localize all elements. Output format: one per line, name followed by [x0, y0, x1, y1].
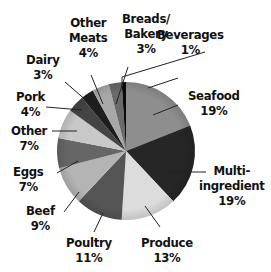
label-multi-pct: 19% — [199, 193, 265, 208]
label-produce-name: Produce — [141, 235, 193, 250]
label-other-pct: 7% — [11, 138, 47, 153]
label-produce: Produce 13% — [141, 235, 193, 265]
label-multi-name1: Multi- — [199, 163, 265, 178]
label-other-name: Other — [11, 123, 47, 138]
label-seafood-pct: 19% — [188, 103, 240, 118]
label-beef: Beef 9% — [26, 203, 55, 233]
label-produce-pct: 13% — [141, 250, 193, 265]
label-beef-name: Beef — [26, 203, 55, 218]
label-poultry: Poultry 11% — [66, 235, 112, 265]
label-breads: Breads/ Bakery 3% — [122, 11, 170, 56]
label-other-meats: Other Meats 4% — [69, 15, 108, 60]
label-poultry-name: Poultry — [66, 235, 112, 250]
leader-line-beef — [64, 192, 79, 212]
label-breads-pct: 3% — [122, 41, 170, 56]
leader-line-dairy — [65, 82, 88, 102]
label-eggs-pct: 7% — [13, 179, 44, 194]
leader-line-beverages — [148, 78, 178, 88]
label-multi-name2: ingredient — [199, 178, 265, 193]
label-seafood: Seafood 19% — [188, 88, 240, 118]
label-dairy-pct: 3% — [26, 67, 60, 82]
label-other: Other 7% — [11, 123, 47, 153]
label-breads-name2: Bakery — [122, 26, 170, 41]
label-dairy: Dairy 3% — [26, 52, 60, 82]
label-other-meats-name2: Meats — [69, 30, 108, 45]
label-beef-pct: 9% — [26, 218, 55, 233]
leader-line-poultry — [94, 213, 103, 232]
label-pork-name: Pork — [16, 89, 45, 104]
label-pork: Pork 4% — [16, 89, 45, 119]
label-pork-pct: 4% — [16, 104, 45, 119]
pie-edge-shade — [57, 82, 195, 220]
label-other-meats-name1: Other — [69, 15, 108, 30]
label-multi-ingredient: Multi- ingredient 19% — [199, 163, 265, 208]
label-other-meats-pct: 4% — [69, 45, 108, 60]
label-poultry-pct: 11% — [66, 250, 112, 265]
label-breads-name1: Breads/ — [122, 11, 170, 26]
label-eggs: Eggs 7% — [13, 164, 44, 194]
label-dairy-name: Dairy — [26, 52, 60, 67]
label-eggs-name: Eggs — [13, 164, 44, 179]
label-seafood-name: Seafood — [188, 88, 240, 103]
